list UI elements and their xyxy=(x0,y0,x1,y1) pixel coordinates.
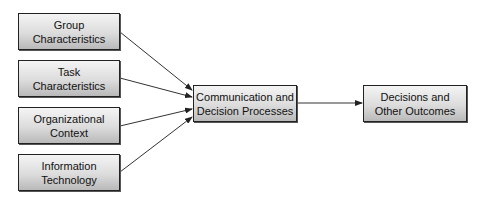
box-label-line1: Group xyxy=(33,18,106,32)
box-label-line1: Information xyxy=(41,159,97,173)
information-technology-box: InformationTechnology xyxy=(18,154,120,191)
arrow-org-to-process xyxy=(120,109,192,126)
organizational-context-box: OrganizationalContext xyxy=(18,107,120,144)
group-characteristics-box: GroupCharacteristics xyxy=(18,13,120,50)
decisions-outcomes-box: Decisions andOther Outcomes xyxy=(363,85,467,122)
box-label-line2: Context xyxy=(34,126,105,140)
box-label-line1: Task xyxy=(33,65,106,79)
box-label-line1: Communication and xyxy=(196,90,294,104)
box-label-line2: Characteristics xyxy=(33,32,106,46)
box-label-line2: Technology xyxy=(41,173,97,187)
task-characteristics-box: TaskCharacteristics xyxy=(18,60,120,97)
box-label-line2: Characteristics xyxy=(33,79,106,93)
arrow-info-to-process xyxy=(120,117,192,172)
box-label-line2: Decision Processes xyxy=(196,104,294,118)
box-label-line1: Decisions and xyxy=(375,90,456,104)
box-label-line1: Organizational xyxy=(34,112,105,126)
communication-decision-processes-box: Communication andDecision Processes xyxy=(193,85,297,122)
box-label-line2: Other Outcomes xyxy=(375,104,456,118)
